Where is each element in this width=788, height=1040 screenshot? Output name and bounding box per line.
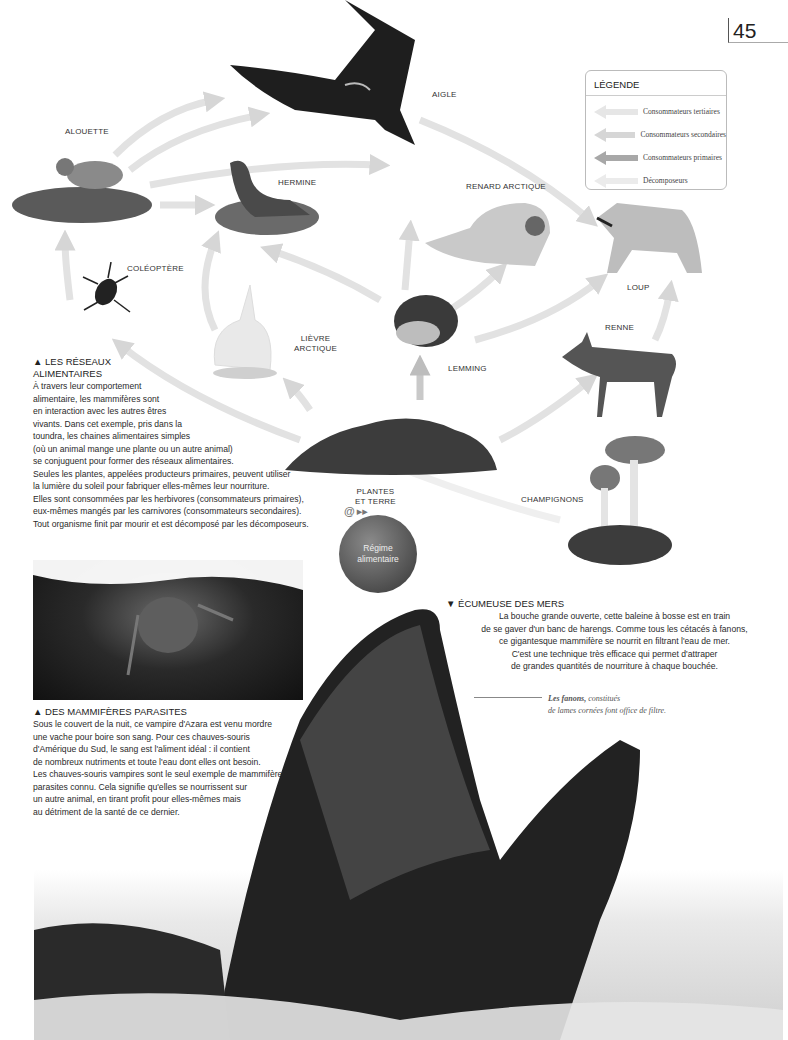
ermine-image	[215, 155, 320, 237]
fanons-pointer-line	[474, 697, 542, 698]
arrow-icon	[594, 154, 638, 162]
label-renard-arctique: RENARD ARCTIQUE	[466, 182, 546, 192]
arctic-fox-image	[425, 198, 555, 268]
reindeer-image	[562, 332, 682, 417]
beetle-image	[78, 262, 136, 320]
regime-label: Régime alimentaire	[339, 543, 417, 565]
eagle-image	[225, 0, 435, 150]
arrow-icon	[594, 177, 638, 185]
label-hermine: HERMINE	[278, 178, 316, 188]
regime-alimentaire-button[interactable]: Régime alimentaire	[339, 515, 417, 593]
legend-item-primaires: Consommateurs primaires	[586, 146, 726, 169]
lark-image	[10, 145, 155, 225]
label-loup: LOUP	[627, 283, 650, 293]
legend-item-tertiaires: Consommateurs tertiaires	[586, 100, 726, 123]
label-alouette: ALOUETTE	[65, 127, 109, 137]
lemming-image	[388, 293, 466, 351]
legend-item-decomposeurs: Décomposeurs	[586, 169, 726, 192]
legend-box: LÉGENDE Consommateurs tertiaires Consomm…	[585, 70, 727, 190]
fanons-note: Les fanons, constitués de lames cornées …	[548, 693, 666, 717]
reseaux-title: ▲ LES RÉSEAUX ALIMENTAIRES	[33, 356, 333, 380]
arrow-icon	[594, 131, 635, 139]
label-lievre-arctique: LIÈVRE ARCTIQUE	[294, 334, 337, 354]
humpback-whale-photo	[0, 600, 783, 1040]
label-aigle: AIGLE	[432, 90, 457, 100]
arrow-icon	[594, 108, 638, 116]
legend-item-secondaires: Consommateurs secondaires	[586, 123, 726, 146]
label-champignons: CHAMPIGNONS	[521, 495, 584, 505]
label-lemming: LEMMING	[448, 364, 487, 374]
reseaux-section: ▲ LES RÉSEAUX ALIMENTAIRES À travers leu…	[33, 356, 333, 530]
reseaux-body: À travers leur comportement alimentaire,…	[33, 380, 333, 530]
wolf-image	[592, 198, 707, 276]
legend-title: LÉGENDE	[586, 71, 726, 96]
